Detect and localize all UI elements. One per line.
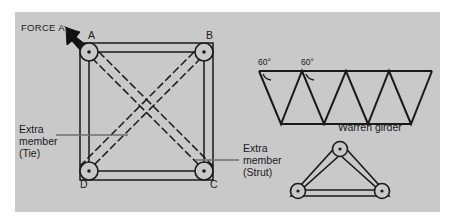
tie-annotation-line-1: Extra bbox=[19, 123, 44, 135]
pin-joint-icon bbox=[375, 184, 390, 199]
warren-girder-caption: Warren girder bbox=[338, 121, 402, 133]
tie-annotation-line-2: member bbox=[19, 135, 58, 147]
angle-arc-icon bbox=[306, 74, 314, 80]
node-label-a: A bbox=[88, 29, 95, 41]
warren-angle-label-1: 60° bbox=[258, 56, 271, 68]
square-frame bbox=[79, 43, 214, 180]
tie-annotation-line-3: (Tie) bbox=[19, 147, 40, 159]
diagram-vectors bbox=[0, 0, 454, 224]
node-label-d: D bbox=[80, 178, 88, 190]
strut-annotation-line-2: member bbox=[243, 154, 282, 166]
warren-girder bbox=[259, 71, 432, 124]
pin-joint-icon bbox=[333, 142, 348, 157]
pin-joint-icon bbox=[80, 43, 98, 61]
warren-angle-label-2: 60° bbox=[301, 56, 314, 68]
node-label-c: C bbox=[210, 178, 218, 190]
strut-annotation-line-3: (Strut) bbox=[243, 166, 272, 178]
figure-canvas: FORCE A A B C D Extra member (Tie) Extra… bbox=[0, 0, 454, 224]
force-label: FORCE A bbox=[21, 22, 65, 34]
angle-arc-icon bbox=[263, 74, 271, 80]
pin-joint-icon bbox=[291, 184, 306, 199]
node-label-b: B bbox=[206, 29, 213, 41]
warren-web-members bbox=[259, 71, 432, 124]
pin-joint-icon bbox=[195, 43, 213, 61]
strut-annotation-line-1: Extra bbox=[243, 142, 268, 154]
